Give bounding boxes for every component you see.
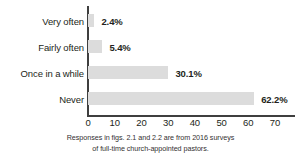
bar-value-fairly-often: 5.4% <box>109 34 130 60</box>
x-axis-tick-0: 0 <box>76 117 100 128</box>
bar-track: 2.4% <box>88 8 301 34</box>
bar-once-in-a-while <box>88 66 168 79</box>
figure-caption: Responses in figs. 2.1 and 2.2 are from … <box>0 133 301 154</box>
x-axis-tick-60: 60 <box>236 117 260 128</box>
bar-never <box>88 92 254 105</box>
bar-track: 5.4% <box>88 34 301 60</box>
caption-line-1: Responses in figs. 2.1 and 2.2 are from … <box>0 133 301 144</box>
chart-row: Never 62.2% <box>0 86 301 112</box>
x-axis-tick-labels: 010203040506070 <box>0 117 301 131</box>
chart-row: Fairly often 5.4% <box>0 34 301 60</box>
category-label-never: Never <box>0 86 84 112</box>
bar-track: 62.2% <box>88 86 301 112</box>
x-axis-tick-50: 50 <box>210 117 234 128</box>
x-axis-tick-10: 10 <box>103 117 127 128</box>
category-label-once-in-a-while: Once in a while <box>0 60 84 86</box>
figure-bar-chart: Very often 2.4% Fairly often 5.4% Once i… <box>0 0 301 167</box>
bar-fairly-often <box>88 40 102 53</box>
chart-row: Very often 2.4% <box>0 8 301 34</box>
bar-value-never: 62.2% <box>261 86 287 112</box>
x-axis-tick-70: 70 <box>263 117 287 128</box>
x-axis-tick-20: 20 <box>129 117 153 128</box>
category-label-fairly-often: Fairly often <box>0 34 84 60</box>
plot-area: Very often 2.4% Fairly often 5.4% Once i… <box>0 0 301 132</box>
bar-value-very-often: 2.4% <box>101 8 122 34</box>
bar-very-often <box>88 14 94 27</box>
bar-track: 30.1% <box>88 60 301 86</box>
category-label-very-often: Very often <box>0 8 84 34</box>
caption-line-2: of full-time church-appointed pastors. <box>0 144 301 155</box>
x-axis-tick-40: 40 <box>183 117 207 128</box>
x-axis-tick-30: 30 <box>156 117 180 128</box>
chart-row: Once in a while 30.1% <box>0 60 301 86</box>
bar-value-once-in-a-while: 30.1% <box>175 60 201 86</box>
